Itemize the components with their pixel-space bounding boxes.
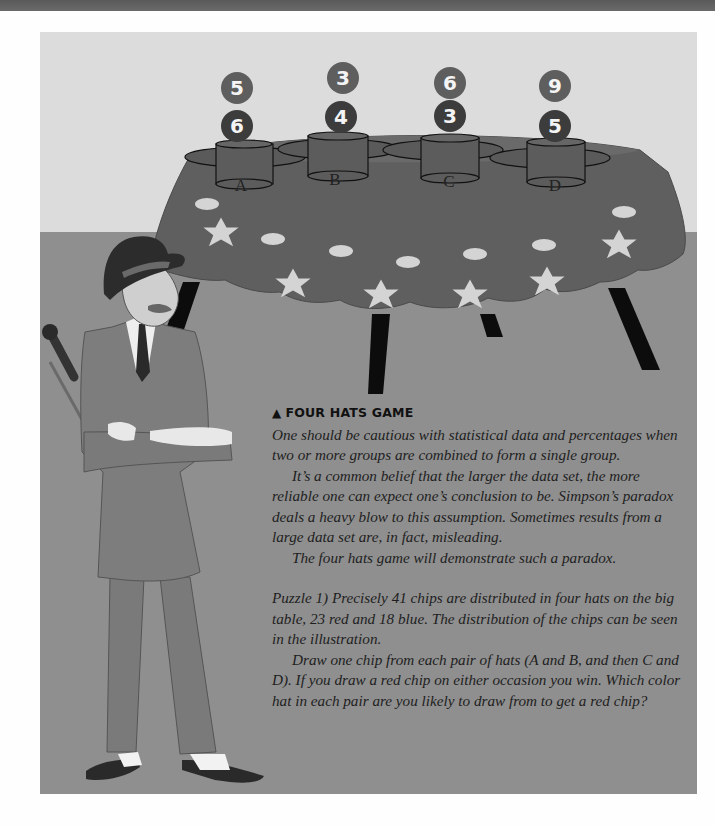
- top-edge-strip: [0, 0, 715, 11]
- question-paragraph: Draw one chip from each pair of hats (A …: [272, 650, 687, 712]
- intro-paragraph: One should be cautious with statistical …: [272, 425, 687, 466]
- hat-a-red-chip: 5: [221, 72, 253, 104]
- triangle-marker-icon: ▲: [272, 406, 281, 420]
- demo-paragraph: The four hats game will demonstrate such…: [272, 548, 687, 569]
- hat-d-red-chip: 9: [539, 70, 571, 102]
- man-illustration: [42, 236, 264, 782]
- section-heading-text: FOUR HATS GAME: [285, 405, 413, 420]
- puzzle-panel: 5 6 3 4 6 3 9 5 A B C D ▲FOUR HATS GAME …: [40, 32, 697, 794]
- hat-a-label: A: [226, 176, 256, 196]
- puzzle-paragraph: Puzzle 1) Precisely 41 chips are distrib…: [272, 588, 687, 650]
- simpson-paragraph: It’s a common belief that the larger the…: [272, 466, 687, 548]
- hat-d-blue-chip: 5: [539, 110, 571, 142]
- hat-c-red-chip: 6: [434, 67, 466, 99]
- hat-a-blue-chip: 6: [221, 110, 253, 142]
- hat-b-red-chip: 3: [327, 62, 359, 94]
- section-heading: ▲FOUR HATS GAME: [272, 403, 687, 424]
- hat-d-label: D: [540, 176, 570, 196]
- hat-b-blue-chip: 4: [325, 101, 357, 133]
- puzzle-text: ▲FOUR HATS GAME One should be cautious w…: [272, 403, 687, 711]
- hat-b-label: B: [320, 170, 350, 190]
- hat-c-label: C: [434, 172, 464, 192]
- hat-c-blue-chip: 3: [434, 100, 466, 132]
